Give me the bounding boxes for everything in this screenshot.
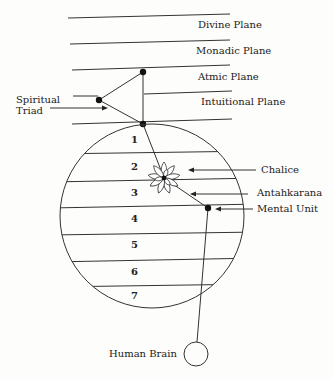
subplane-7: 7	[131, 290, 138, 301]
subplane-2: 2	[131, 161, 138, 172]
atmic-plane-label: Atmic Plane	[197, 71, 259, 82]
arrow-head-icon	[102, 106, 108, 111]
chalice-lotus-icon	[148, 162, 180, 194]
spiritual-triad-label-1: Spiritual	[16, 94, 60, 105]
subplane-3: 3	[131, 187, 138, 198]
buddhic-point	[96, 97, 102, 103]
divine-plane-label: Divine Plane	[198, 19, 262, 30]
mental-plane-sphere	[50, 124, 260, 308]
spiritual-triad	[96, 69, 146, 127]
atmic-point	[140, 69, 146, 75]
spiritual-triad-label-2: Triad	[16, 105, 44, 116]
plane-line-2	[70, 40, 230, 44]
plane-line-4-right	[144, 91, 232, 94]
arrow-head-icon	[188, 168, 194, 173]
subplane-5: 5	[131, 239, 138, 250]
chalice-label: Chalice	[261, 164, 299, 175]
subplane-1: 1	[131, 134, 138, 145]
human-brain-circle	[184, 342, 208, 366]
monadic-plane-label: Monadic Plane	[196, 45, 271, 56]
subplane-6: 6	[131, 266, 138, 277]
arrow-head-icon	[215, 207, 221, 212]
antahkarana-label: Antahkarana	[256, 187, 322, 198]
plane-line-1	[68, 14, 230, 18]
intuitional-plane-label: Intuitional Plane	[201, 96, 285, 107]
human-brain-label: Human Brain	[109, 348, 178, 359]
mental-unit-point	[205, 205, 211, 211]
mental-unit-label: Mental Unit	[257, 203, 318, 214]
antahkarana-diagram: Divine Plane Monadic Plane Atmic Plane I…	[0, 0, 333, 379]
plane-line-5	[72, 119, 232, 124]
brain-thread	[197, 208, 208, 342]
plane-line-3	[72, 65, 230, 70]
subplane-4: 4	[131, 213, 138, 224]
